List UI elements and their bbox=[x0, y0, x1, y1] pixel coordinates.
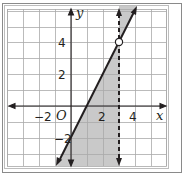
y-axis-label: y bbox=[75, 5, 84, 20]
y-tick-label-neg2: −2 bbox=[54, 132, 72, 146]
x-axis-label: x bbox=[156, 108, 164, 123]
coordinate-graph: y x O −2 2 4 4 2 −2 bbox=[0, 0, 182, 175]
y-tick-label-4: 4 bbox=[58, 36, 66, 50]
origin-label: O bbox=[56, 108, 67, 123]
open-circle-point bbox=[115, 38, 122, 45]
x-tick-label-4: 4 bbox=[129, 110, 137, 124]
x-tick-label-neg2: −2 bbox=[34, 110, 52, 124]
y-tick-label-2: 2 bbox=[58, 68, 66, 82]
x-tick-label-2: 2 bbox=[98, 110, 106, 124]
